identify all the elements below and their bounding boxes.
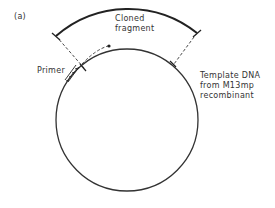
template-label-2: from M13mp: [200, 81, 254, 91]
left-dashed-line: [56, 36, 84, 68]
right-dashed-line: [174, 33, 197, 64]
template-label-1: Template DNA: [200, 71, 260, 81]
cloned-fragment-label-2: fragment: [115, 24, 154, 34]
cloned-fragment-label-1: Cloned: [115, 14, 145, 24]
primer-label: Primer: [37, 66, 65, 76]
synthesis-direction-arrow: [82, 46, 108, 64]
diagram-canvas: (a) Cloned fragment Primer Template DNA …: [0, 0, 275, 208]
panel-label: (a): [14, 12, 26, 22]
primer-strand: [65, 65, 79, 82]
template-dna-circle: [56, 49, 198, 191]
template-label-3: recombinant: [200, 91, 254, 101]
arrow-head-dot: [107, 44, 110, 47]
